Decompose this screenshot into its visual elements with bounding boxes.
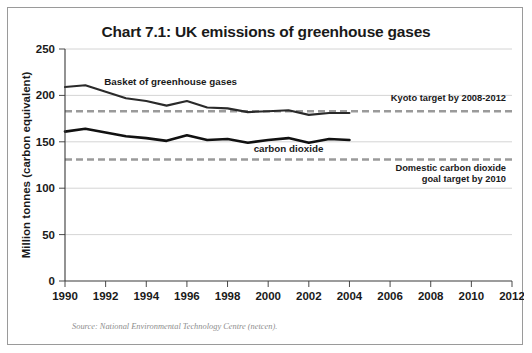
x-axis-tick-label: 1996 bbox=[174, 290, 200, 302]
y-axis-tick-label: 0 bbox=[49, 275, 55, 287]
y-axis-tick-label: 200 bbox=[36, 89, 55, 101]
x-axis-tick-label: 1990 bbox=[52, 290, 78, 302]
annotation-kyoto-target: Kyoto target by 2008-2012 bbox=[391, 93, 506, 103]
x-axis-ticks-group: 1990199219941996199820002002200420062008… bbox=[52, 281, 524, 302]
y-axis-title: Million tonnes (carbon equivalent) bbox=[20, 72, 32, 259]
annotation-carbon-dioxide: carbon dioxide bbox=[254, 143, 324, 154]
x-axis-tick-label: 2004 bbox=[337, 290, 363, 302]
y-axis-tick-label: 50 bbox=[42, 229, 55, 241]
x-axis-tick-label: 2008 bbox=[418, 290, 444, 302]
emissions-line-chart: 050100150200250Million tonnes (carbon eq… bbox=[8, 8, 524, 346]
series-line-carbon-dioxide bbox=[65, 129, 349, 143]
x-axis-tick-label: 2002 bbox=[296, 290, 322, 302]
series-line-basket bbox=[65, 85, 349, 115]
annotations-group: Basket of greenhouse gasescarbon dioxide… bbox=[104, 76, 506, 184]
y-axis-tick-label: 150 bbox=[36, 136, 55, 148]
x-axis-tick-label: 1998 bbox=[215, 290, 241, 302]
chart-frame: Chart 7.1: UK emissions of greenhouse ga… bbox=[7, 7, 523, 345]
x-axis-tick-label: 2012 bbox=[499, 290, 524, 302]
y-axis-tick-label: 250 bbox=[36, 43, 55, 55]
source-note: Source: National Environmental Technolog… bbox=[72, 322, 277, 331]
y-axis-tick-label: 100 bbox=[36, 182, 55, 194]
data-series-group bbox=[65, 85, 349, 143]
chart-page: Chart 7.1: UK emissions of greenhouse ga… bbox=[0, 0, 532, 353]
annotation-domestic-target-line2: goal target by 2010 bbox=[422, 174, 506, 184]
annotation-domestic-target-line1: Domestic carbon dioxide bbox=[395, 163, 506, 173]
x-axis-tick-label: 2010 bbox=[459, 290, 485, 302]
x-axis-tick-label: 1992 bbox=[93, 290, 119, 302]
x-axis-tick-label: 1994 bbox=[133, 290, 159, 302]
annotation-basket: Basket of greenhouse gases bbox=[104, 76, 237, 87]
x-axis-tick-label: 2006 bbox=[377, 290, 403, 302]
y-axis-ticks-group: 050100150200250Million tonnes (carbon eq… bbox=[20, 43, 65, 287]
x-axis-tick-label: 2000 bbox=[255, 290, 281, 302]
